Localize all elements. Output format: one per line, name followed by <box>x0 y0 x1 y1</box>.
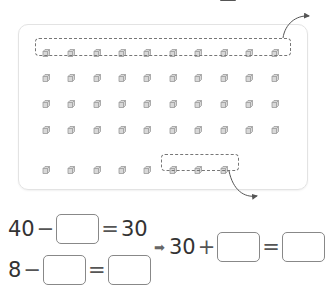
minus-sign: − <box>37 217 55 241</box>
equation-2: 8 − = <box>8 255 151 285</box>
eq1-right: 30 <box>121 217 148 241</box>
eq2-left: 8 <box>8 258 21 282</box>
eq2-answer-blank-2[interactable] <box>108 255 151 285</box>
eq3-answer-blank-2[interactable] <box>282 232 325 262</box>
minus-sign: − <box>23 258 41 282</box>
eq2-answer-blank-1[interactable] <box>43 255 86 285</box>
arrow-top-right-icon <box>283 16 309 38</box>
eq3-answer-blank-1[interactable] <box>217 232 260 262</box>
equation-3: ➡ 30 + = <box>154 232 325 262</box>
right-arrow-icon: ➡ <box>154 240 165 255</box>
eq1-left: 40 <box>8 217 35 241</box>
equals-sign: = <box>101 217 119 241</box>
eq1-answer-blank[interactable] <box>56 214 99 244</box>
arrow-bottom-icon <box>229 171 257 196</box>
equals-sign: = <box>88 258 106 282</box>
eq3-left: 30 <box>169 235 196 259</box>
equation-1: 40 − = 30 <box>8 214 148 244</box>
equals-sign: = <box>262 235 280 259</box>
plus-sign: + <box>198 235 216 259</box>
